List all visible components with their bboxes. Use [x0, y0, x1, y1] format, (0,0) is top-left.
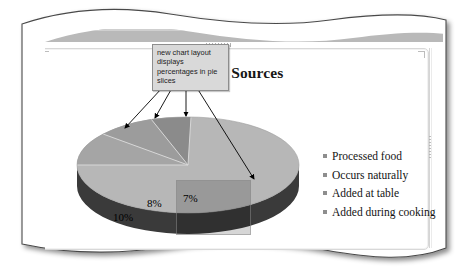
legend-swatch-icon — [323, 154, 327, 158]
legend-item-label: Added during cooking — [332, 206, 435, 218]
callout-annotation[interactable]: new chart layout displays percentages in… — [152, 44, 229, 91]
legend-item-processed-food[interactable]: Processed food — [323, 150, 435, 162]
legend-swatch-icon — [323, 173, 327, 177]
callout-text: new chart layout displays percentages in… — [157, 48, 217, 85]
pie-label-8: 8% — [147, 197, 162, 209]
slide-corner-handle-top-right[interactable] — [418, 51, 425, 58]
pie-chart-graphic — [63, 93, 313, 243]
application-window: Salt Sources 10% 8% 7% 75 — [23, 18, 443, 256]
legend-swatch-icon — [323, 191, 327, 195]
legend-item-label: Added at table — [332, 187, 399, 199]
legend-swatch-icon — [323, 210, 327, 214]
chart-legend[interactable]: Processed food Occurs naturally Added at… — [323, 150, 435, 224]
legend-item-added-during-cooking[interactable]: Added during cooking — [323, 206, 435, 218]
legend-item-occurs-naturally[interactable]: Occurs naturally — [323, 169, 435, 181]
pie-label-7: 7% — [183, 192, 198, 204]
pie-label-10: 10% — [113, 211, 133, 223]
legend-item-added-at-table[interactable]: Added at table — [323, 187, 435, 199]
legend-item-label: Occurs naturally — [332, 169, 408, 181]
torn-paper-page: Salt Sources 10% 8% 7% 75 — [0, 0, 469, 280]
pie-chart[interactable]: 10% 8% 7% 75% — [63, 93, 313, 243]
legend-item-label: Processed food — [332, 150, 402, 162]
